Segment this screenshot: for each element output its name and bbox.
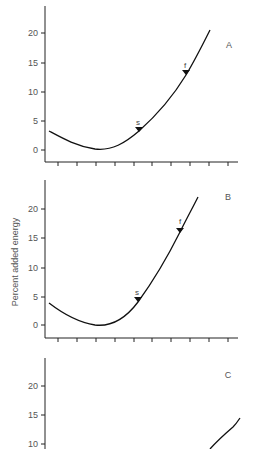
y-ticks xyxy=(41,386,45,444)
y-tick-label: 15 xyxy=(28,233,38,243)
marker-f-icon xyxy=(182,70,190,75)
marker-f-icon xyxy=(176,228,184,233)
y-ticks xyxy=(41,209,45,325)
panel-label-a: A xyxy=(226,40,232,50)
y-ticks xyxy=(41,33,45,150)
y-axis-label: Percent added energy xyxy=(10,217,20,306)
y-tick-label: 15 xyxy=(28,410,38,420)
y-tick-label: 0 xyxy=(33,145,38,155)
marker-s-icon xyxy=(134,297,142,302)
y-tick-label: 0 xyxy=(33,320,38,330)
y-tick-label: 20 xyxy=(28,381,38,391)
marker-f-label: f xyxy=(184,61,187,70)
curve-b xyxy=(49,197,198,325)
y-tick-label: 20 xyxy=(28,28,38,38)
y-tick-label: 10 xyxy=(28,439,38,449)
y-tick-label: 10 xyxy=(28,87,38,97)
marker-s-icon xyxy=(135,127,143,132)
marker-s-label: s xyxy=(136,118,140,127)
panel-b: 20 15 10 5 0 Percent added energy s f B xyxy=(10,180,238,342)
marker-f-label: f xyxy=(179,217,182,226)
panel-c: 20 15 10 C xyxy=(28,358,240,449)
marker-s-label: s xyxy=(135,288,139,297)
x-ticks xyxy=(58,338,228,342)
curve-a xyxy=(49,30,210,149)
curve-c xyxy=(210,418,240,449)
panel-label-b: B xyxy=(225,192,231,202)
y-tick-label: 10 xyxy=(28,263,38,273)
panel-a: 20 15 10 5 0 s f A xyxy=(28,6,238,166)
y-tick-label: 15 xyxy=(28,58,38,68)
y-tick-label: 20 xyxy=(28,204,38,214)
figure: 20 15 10 5 0 s f A 20 15 10 xyxy=(0,0,255,449)
y-tick-label: 5 xyxy=(33,116,38,126)
y-tick-label: 5 xyxy=(33,292,38,302)
panel-label-c: C xyxy=(225,370,232,380)
x-ticks xyxy=(58,162,228,166)
